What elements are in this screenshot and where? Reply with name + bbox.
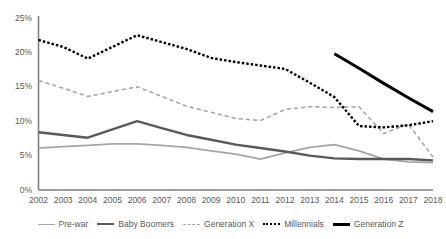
legend-label-generation-z: Generation Z xyxy=(354,219,404,229)
x-axis-tick-2003: 2003 xyxy=(50,195,76,205)
y-axis-tick-15: 15% xyxy=(2,81,32,91)
legend-item-baby-boomers[interactable]: Baby Boomers xyxy=(97,219,174,229)
legend-label-generation-x: Generation X xyxy=(204,219,254,229)
legend-swatch-baby-boomers xyxy=(97,223,114,225)
x-axis-tick-2010: 2010 xyxy=(223,195,249,205)
x-axis-tick-2016: 2016 xyxy=(371,195,397,205)
y-axis-tick-5: 5% xyxy=(2,150,32,160)
legend-label-pre-war: Pre-war xyxy=(59,219,89,229)
x-axis-tick-2005: 2005 xyxy=(99,195,125,205)
x-axis-tick-2012: 2012 xyxy=(272,195,298,205)
chart-legend: Pre-warBaby BoomersGeneration XMillennia… xyxy=(0,219,441,229)
x-axis-tick-2004: 2004 xyxy=(75,195,101,205)
x-axis-tick-2017: 2017 xyxy=(395,195,421,205)
legend-item-millennials[interactable]: Millennials xyxy=(263,219,324,229)
x-axis-tick-2014: 2014 xyxy=(321,195,347,205)
x-axis-tick-2015: 2015 xyxy=(346,195,372,205)
series-line-generation-z xyxy=(334,54,433,112)
x-axis-tick-2018: 2018 xyxy=(420,195,446,205)
series-line-millennials xyxy=(39,35,434,127)
x-axis-tick-2009: 2009 xyxy=(198,195,224,205)
x-axis-tick-2008: 2008 xyxy=(173,195,199,205)
x-axis-tick-2007: 2007 xyxy=(149,195,175,205)
legend-swatch-pre-war xyxy=(38,224,55,225)
y-axis-tick-10: 10% xyxy=(2,116,32,126)
x-axis-tick-2011: 2011 xyxy=(247,195,273,205)
y-axis-tick-0: 0% xyxy=(2,185,32,195)
legend-swatch-generation-z xyxy=(333,223,350,226)
y-axis-tick-25: 25% xyxy=(2,13,32,23)
legend-item-generation-x[interactable]: Generation X xyxy=(183,219,254,229)
x-axis-tick-2006: 2006 xyxy=(124,195,150,205)
x-axis-tick-2013: 2013 xyxy=(297,195,323,205)
legend-label-millennials: Millennials xyxy=(284,219,324,229)
y-axis-tick-20: 20% xyxy=(2,47,32,57)
legend-swatch-millennials xyxy=(263,223,280,225)
legend-item-generation-z[interactable]: Generation Z xyxy=(333,219,404,229)
legend-label-baby-boomers: Baby Boomers xyxy=(118,219,174,229)
legend-item-pre-war[interactable]: Pre-war xyxy=(38,219,89,229)
x-axis-tick-2002: 2002 xyxy=(26,195,52,205)
legend-swatch-generation-x xyxy=(183,224,200,225)
